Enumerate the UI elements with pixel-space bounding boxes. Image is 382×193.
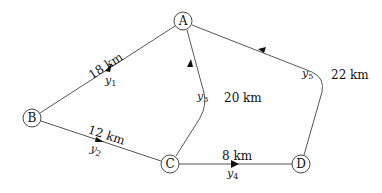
edge-y1-var: y1 <box>104 74 116 88</box>
edge-y4-distance: 8 km <box>222 149 253 163</box>
node-d: D <box>292 155 310 173</box>
edge-y2-var: y2 <box>87 142 103 159</box>
edge-y5-distance: 22 km <box>331 68 369 82</box>
edge-y5-var: y5 <box>301 67 313 81</box>
node-a: A <box>174 12 192 30</box>
node-a-label: A <box>178 14 188 28</box>
node-c: C <box>161 155 179 173</box>
arrow-y3-icon <box>187 59 193 67</box>
node-b: B <box>23 109 41 127</box>
network-diagram: A B C D 18 km y1 12 km y2 y3 20 km 8 km … <box>0 0 382 193</box>
edge-y3-var: y3 <box>196 90 208 104</box>
edge-y3-distance: 20 km <box>224 91 262 105</box>
edge-d-a <box>192 25 323 155</box>
node-b-label: B <box>28 111 37 125</box>
node-c-label: C <box>165 157 174 171</box>
node-d-label: D <box>296 157 306 171</box>
edge-y4-var: y4 <box>226 167 238 181</box>
